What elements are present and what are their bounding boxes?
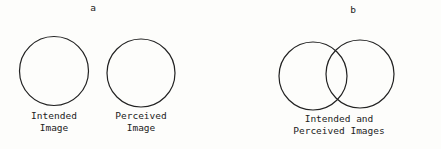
intended-image-caption: Intended Image — [24, 110, 84, 134]
caption-line: Intended — [24, 110, 84, 122]
panel-b-label: b — [346, 4, 360, 16]
perceived-image-caption: Perceived Image — [108, 110, 174, 134]
intended-image-circle — [20, 37, 89, 106]
perceived-image-circle — [107, 39, 175, 107]
overlap-caption: Intended and Perceived Images — [286, 113, 392, 137]
panel-a-label: a — [86, 2, 100, 14]
caption-line: Perceived — [108, 110, 174, 122]
caption-line: Image — [24, 122, 84, 134]
overlap-perceived-circle — [326, 40, 394, 108]
caption-line: Perceived Images — [286, 125, 392, 137]
caption-line: Intended and — [286, 113, 392, 125]
caption-line: Image — [108, 122, 174, 134]
overlap-intended-circle — [279, 42, 347, 110]
